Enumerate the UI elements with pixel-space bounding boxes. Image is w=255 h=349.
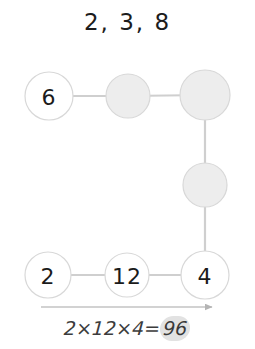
node-2-n-2[interactable] bbox=[25, 252, 71, 298]
node-4-n-4[interactable] bbox=[181, 251, 229, 299]
nodes-group bbox=[25, 70, 230, 299]
equation-text: 2×12×4=96 bbox=[63, 316, 191, 341]
puzzle-canvas: 2, 3, 8 62124 2×12×4=96 bbox=[0, 0, 255, 349]
number-chain-diagram bbox=[0, 0, 255, 349]
equation-result-badge: 96 bbox=[160, 316, 192, 341]
node-12-n-12[interactable] bbox=[105, 253, 149, 297]
node-empty-n-t3[interactable] bbox=[180, 70, 230, 120]
edges-group bbox=[48, 95, 205, 275]
node-empty-n-m1[interactable] bbox=[183, 163, 227, 207]
equation-expression: 2×12×4= bbox=[64, 317, 162, 339]
equation-row: 2×12×4=96 bbox=[0, 316, 255, 341]
node-empty-n-t2[interactable] bbox=[106, 74, 150, 118]
node-6-n-6[interactable] bbox=[25, 72, 73, 120]
